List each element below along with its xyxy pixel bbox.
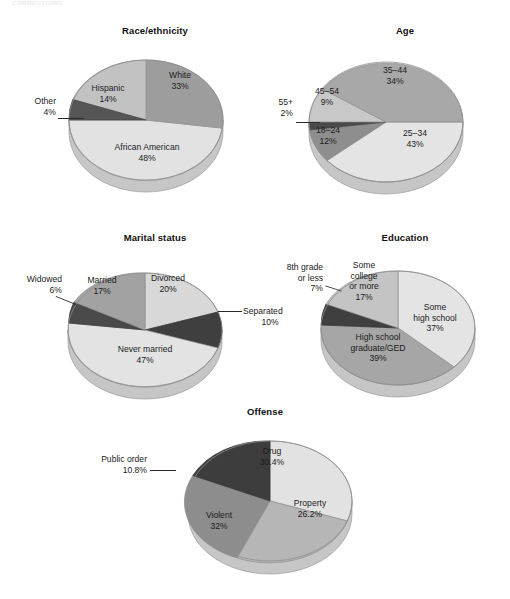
pie-label-8th-grade-line2: or less	[245, 273, 323, 284]
pie-label-property: Property 26.2%	[275, 498, 345, 519]
pie-label-violent-text: Violent	[187, 510, 251, 521]
pie-label-some-college-line3: or more	[333, 281, 395, 292]
pie-label-never-married-value: 47%	[95, 355, 195, 366]
chart-title-marital-status: Marital status	[95, 232, 215, 243]
pie-label-55-plus: 55+ 2%	[245, 97, 293, 118]
pie-leader-public-order	[150, 470, 176, 471]
pie-label-widowed-text: Widowed	[0, 274, 62, 285]
pie-label-25-34: 25–34 43%	[385, 128, 445, 149]
pie-label-some-high-school: Some high school 37%	[395, 302, 475, 334]
chart-title-age: Age	[375, 25, 435, 36]
pie-label-african-american-value: 48%	[92, 153, 202, 164]
pie-label-drug-value: 30.4%	[240, 457, 304, 468]
pie-label-other: Other 4%	[0, 96, 56, 117]
pie-label-african-american-text: African American	[92, 142, 202, 153]
pie-label-some-college-or-more: Some college or more 17%	[333, 260, 395, 302]
chart-education: Education Some high school 37% High scho…	[255, 222, 510, 402]
pie-label-violent-value: 32%	[187, 521, 251, 532]
pie-label-public-order-text: Public order	[15, 454, 147, 465]
pie-label-18-24-text: 18–24	[300, 125, 356, 136]
chart-race-ethnicity: Race/ethnicity White 33% Hispanic 14% Ot…	[0, 0, 255, 210]
pie-label-18-24-value: 12%	[300, 136, 356, 147]
pie-label-married: Married 17%	[72, 275, 132, 296]
pie-label-african-american: African American 48%	[92, 142, 202, 163]
pie-label-widowed: Widowed 6%	[0, 274, 62, 295]
pie-label-never-married: Never married 47%	[95, 344, 195, 365]
chart-title-offense: Offense	[225, 406, 305, 417]
chart-offense: Offense Drug 30.4% Property 26.2% Violen…	[125, 398, 415, 599]
pie-label-public-order: Public order 10.8%	[15, 454, 147, 475]
pie-label-35-44-text: 35–44	[365, 65, 425, 76]
pie-label-25-34-value: 43%	[385, 139, 445, 150]
pie-label-white-text: White	[150, 70, 210, 81]
pie-label-violent: Violent 32%	[187, 510, 251, 531]
pie-leader-other	[58, 118, 84, 119]
pie-label-some-high-school-line1: Some	[395, 302, 475, 313]
pie-label-8th-grade-or-less: 8th grade or less 7%	[245, 262, 323, 294]
pie-label-hs-graduate-ged-value: 39%	[323, 353, 433, 364]
pie-leader-separated	[218, 311, 242, 312]
pie-label-hispanic: Hispanic 14%	[78, 83, 138, 104]
pie-race-ethnicity	[63, 45, 229, 195]
pie-label-35-44: 35–44 34%	[365, 65, 425, 86]
pie-label-widowed-value: 6%	[0, 285, 62, 296]
chart-age: Age 35–44 34% 25–34 43% 18–24 12% 55+ 2%	[255, 0, 510, 210]
pie-label-45-54: 45–54 9%	[299, 86, 355, 107]
pie-label-hs-graduate-ged-line2: graduate/GED	[323, 343, 433, 354]
pie-label-some-college-value: 17%	[333, 292, 395, 303]
pie-label-public-order-value: 10.8%	[15, 465, 147, 476]
pie-label-some-college-line2: college	[333, 271, 395, 282]
pie-label-18-24: 18–24 12%	[300, 125, 356, 146]
pie-label-divorced-text: Divorced	[136, 273, 200, 284]
pie-label-never-married-text: Never married	[95, 344, 195, 355]
pie-label-other-text: Other	[0, 96, 56, 107]
pie-label-45-54-value: 9%	[299, 97, 355, 108]
pie-label-white-value: 33%	[150, 81, 210, 92]
pie-label-drug-text: Drug	[240, 446, 304, 457]
pie-label-some-high-school-line2: high school	[395, 313, 475, 324]
pie-label-35-44-value: 34%	[365, 76, 425, 87]
pie-label-divorced: Divorced 20%	[136, 273, 200, 294]
pie-label-hispanic-value: 14%	[78, 94, 138, 105]
pie-label-married-text: Married	[72, 275, 132, 286]
pie-label-25-34-text: 25–34	[385, 128, 445, 139]
pie-label-8th-grade-value: 7%	[245, 283, 323, 294]
pie-label-drug: Drug 30.4%	[240, 446, 304, 467]
pie-label-55-plus-text: 55+	[245, 97, 293, 108]
pie-label-55-plus-value: 2%	[245, 108, 293, 119]
pie-label-other-value: 4%	[0, 107, 56, 118]
pie-label-hs-graduate-ged: High school graduate/GED 39%	[323, 332, 433, 364]
chart-title-education: Education	[360, 232, 450, 243]
pie-label-45-54-text: 45–54	[299, 86, 355, 97]
pie-label-hs-graduate-ged-line1: High school	[323, 332, 433, 343]
chart-title-race-ethnicity: Race/ethnicity	[95, 25, 215, 36]
pie-label-hispanic-text: Hispanic	[78, 83, 138, 94]
pie-label-property-text: Property	[275, 498, 345, 509]
pie-label-some-college-line1: Some	[333, 260, 395, 271]
pie-leader-55-plus	[296, 122, 320, 123]
pie-label-white: White 33%	[150, 70, 210, 91]
pie-label-8th-grade-line1: 8th grade	[245, 262, 323, 273]
pie-label-married-value: 17%	[72, 286, 132, 297]
pie-label-property-value: 26.2%	[275, 509, 345, 520]
pie-label-divorced-value: 20%	[136, 284, 200, 295]
